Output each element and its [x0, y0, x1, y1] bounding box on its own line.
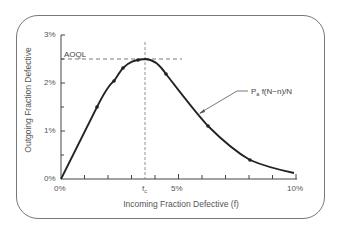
- y-tick-label-1: 1%: [44, 127, 56, 135]
- x-tick-label-fc: fc: [142, 185, 147, 195]
- aoql-label: AOQL: [64, 50, 86, 59]
- leader-arrow-icon: [199, 109, 205, 114]
- y-tick-label-0: 0%: [44, 175, 56, 183]
- x-axis-title: Incoming Fraction Defective (f): [123, 199, 239, 209]
- y-tick-label-2: 2%: [44, 79, 56, 87]
- y-axis-title: Outgoing Fraction Defective: [23, 47, 33, 152]
- curve-label: Pa f(N−n)/N: [251, 87, 292, 97]
- x-ticks: [85, 174, 297, 179]
- aoq-curve: [61, 59, 294, 179]
- x-tick-label-10: 10%: [287, 185, 303, 193]
- x-tick-label-5: 5%: [171, 185, 183, 193]
- x-tick-label-0: 0%: [54, 185, 66, 193]
- curve-label-leader: [200, 91, 248, 113]
- y-tick-label-3: 3%: [44, 31, 56, 39]
